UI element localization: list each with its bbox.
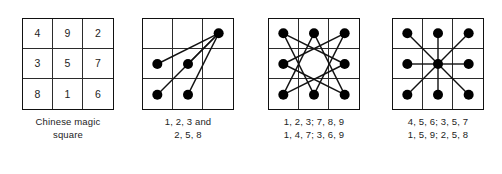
cell-r2c1 (269, 49, 299, 79)
cell-r3c1 (393, 79, 423, 109)
cell-r3c2: 1 (53, 79, 83, 109)
cell-r2c3 (329, 49, 359, 79)
cell-r1c1: 4 (23, 19, 53, 49)
cell-r2c2 (299, 49, 329, 79)
panel-magic-square: 492357816Chinese magicsquare (22, 0, 114, 174)
cell-r1c3 (329, 19, 359, 49)
cell-r2c3 (203, 49, 233, 79)
magic-square-figure: 492357816Chinese magicsquare1, 2, 3 and2… (0, 0, 502, 174)
grid-wrapper-magic-square: 492357816 (22, 18, 114, 110)
caption-paths-radial: 4, 5, 6; 3, 5, 71, 5, 9; 2, 5, 8 (392, 116, 484, 141)
cell-r1c3 (453, 19, 483, 49)
cell-r3c3 (329, 79, 359, 109)
cell-r1c2 (423, 19, 453, 49)
cell-r1c2 (173, 19, 203, 49)
cell-r2c2 (423, 49, 453, 79)
cell-r2c3 (453, 49, 483, 79)
caption-line-2: 2, 5, 8 (142, 129, 234, 142)
cell-r1c1 (393, 19, 423, 49)
cell-r3c1: 8 (23, 79, 53, 109)
cell-r3c2 (173, 79, 203, 109)
cell-r1c2: 9 (53, 19, 83, 49)
caption-line-2: 1, 5, 9; 2, 5, 8 (392, 129, 484, 142)
cell-r3c3 (453, 79, 483, 109)
panel-paths-radial: 4, 5, 6; 3, 5, 71, 5, 9; 2, 5, 8 (392, 0, 484, 174)
caption-line-2: square (22, 129, 114, 142)
magic-grid-paths-star (268, 18, 360, 110)
cell-r1c1 (143, 19, 173, 49)
cell-r1c3 (203, 19, 233, 49)
magic-grid-magic-square: 492357816 (22, 18, 114, 110)
panel-paths-star: 1, 2, 3; 7, 8, 91, 4, 7; 3, 6, 9 (268, 0, 360, 174)
cell-r2c1 (143, 49, 173, 79)
magic-grid-paths-radial (392, 18, 484, 110)
cell-r3c2 (423, 79, 453, 109)
cell-r1c1 (269, 19, 299, 49)
caption-line-2: 1, 4, 7; 3, 6, 9 (268, 129, 360, 142)
cell-r3c1 (269, 79, 299, 109)
grid-wrapper-paths-star (268, 18, 360, 110)
cell-r1c2 (299, 19, 329, 49)
panel-paths-fan: 1, 2, 3 and2, 5, 8 (142, 0, 234, 174)
caption-paths-fan: 1, 2, 3 and2, 5, 8 (142, 116, 234, 141)
caption-line-1: Chinese magic (22, 116, 114, 129)
caption-paths-star: 1, 2, 3; 7, 8, 91, 4, 7; 3, 6, 9 (268, 116, 360, 141)
cell-r2c1: 3 (23, 49, 53, 79)
caption-magic-square: Chinese magicsquare (22, 116, 114, 141)
cell-r2c2: 5 (53, 49, 83, 79)
grid-wrapper-paths-radial (392, 18, 484, 110)
cell-r2c1 (393, 49, 423, 79)
magic-grid-paths-fan (142, 18, 234, 110)
grid-wrapper-paths-fan (142, 18, 234, 110)
cell-r3c1 (143, 79, 173, 109)
cell-r3c3: 6 (83, 79, 113, 109)
cell-r2c2 (173, 49, 203, 79)
cell-r2c3: 7 (83, 49, 113, 79)
caption-line-1: 1, 2, 3; 7, 8, 9 (268, 116, 360, 129)
caption-line-1: 1, 2, 3 and (142, 116, 234, 129)
caption-line-1: 4, 5, 6; 3, 5, 7 (392, 116, 484, 129)
cell-r3c2 (299, 79, 329, 109)
cell-r3c3 (203, 79, 233, 109)
cell-r1c3: 2 (83, 19, 113, 49)
